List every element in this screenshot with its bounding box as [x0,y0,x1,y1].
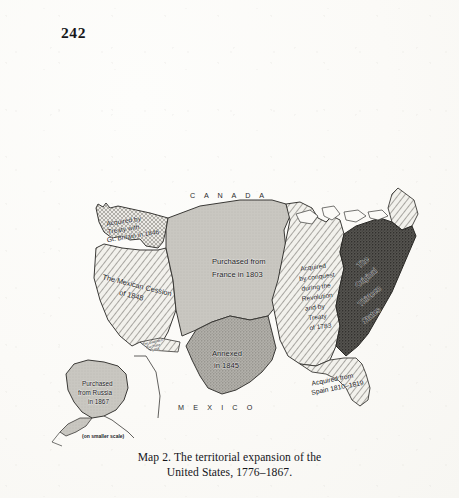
page-number: 242 [61,24,86,42]
alaska-scale-note: (on smaller scale) [82,433,125,439]
louisiana-label-line-1: Purchased from [212,257,266,266]
louisiana-label-line-2: France in 1803 [212,270,263,279]
region-original-thirteen-states: The Original Thirteen States [331,218,416,356]
caption-line-1: Map 2. The territorial expansion of the [0,450,459,465]
alaska-label-line-3: in 1867 [88,398,109,405]
region-florida-cession: Acquired from Spain 1810–1819 [300,358,370,406]
gadsden-label-line-3: 1853 [152,347,160,353]
alaska-label-line-2: from Russia [78,389,113,396]
alaska-label-line-1: Purchased [82,380,113,387]
region-oregon-country: Acquired by Treaty with Gt. Britain in 1… [96,203,168,248]
map-illustration: C A N A D A Acquired by Treaty with Gt. … [0,160,459,450]
figure-caption: Map 2. The territorial expansion of the … [0,450,459,481]
mexico-label: M E X I C O [178,403,256,412]
texas-label-line-1: Annexed [212,349,242,358]
map-figure: C A N A D A Acquired by Treaty with Gt. … [0,160,459,450]
region-mexican-cession: The Mexican Cession of 1848 [94,244,176,350]
texas-label-line-2: in 1845 [214,361,239,370]
region-louisiana-purchase: Purchased from France in 1803 [166,200,290,336]
region-alaska-purchase: Purchased from Russia in 1867 (on smalle… [60,360,134,439]
canada-label: C A N A D A [190,191,268,200]
region-texas-annexation: Annexed in 1845 [186,316,276,394]
caption-line-2: United States, 1776–1867. [0,465,459,480]
